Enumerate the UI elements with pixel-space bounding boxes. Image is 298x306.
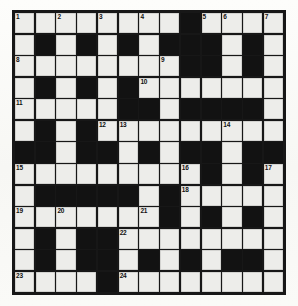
open-square-r3-c11[interactable] bbox=[222, 56, 241, 76]
open-square-r3-c2[interactable] bbox=[36, 56, 55, 76]
open-square-r13-c9[interactable] bbox=[181, 272, 200, 292]
open-square-r2-c7[interactable] bbox=[139, 35, 158, 55]
open-square-r11-c12[interactable] bbox=[243, 229, 262, 249]
open-square-r8-c13[interactable]: 17 bbox=[264, 164, 283, 184]
open-square-r3-c13[interactable] bbox=[264, 56, 283, 76]
open-square-r4-c7[interactable]: 10 bbox=[139, 78, 158, 98]
open-square-r13-c3[interactable] bbox=[56, 272, 75, 292]
open-square-r11-c13[interactable] bbox=[264, 229, 283, 249]
open-square-r10-c2[interactable] bbox=[36, 207, 55, 227]
open-square-r6-c9[interactable] bbox=[181, 121, 200, 141]
open-square-r8-c11[interactable] bbox=[222, 164, 241, 184]
open-square-r4-c13[interactable] bbox=[264, 78, 283, 98]
open-square-r2-c5[interactable] bbox=[98, 35, 117, 55]
open-square-r11-c3[interactable] bbox=[56, 229, 75, 249]
open-square-r12-c1[interactable] bbox=[15, 250, 34, 270]
open-square-r1-c7[interactable]: 4 bbox=[139, 13, 158, 33]
open-square-r8-c3[interactable] bbox=[56, 164, 75, 184]
open-square-r7-c8[interactable] bbox=[160, 142, 179, 162]
open-square-r8-c1[interactable]: 15 bbox=[15, 164, 34, 184]
open-square-r1-c10[interactable]: 5 bbox=[202, 13, 221, 33]
open-square-r10-c5[interactable] bbox=[98, 207, 117, 227]
open-square-r3-c7[interactable] bbox=[139, 56, 158, 76]
open-square-r9-c9[interactable]: 18 bbox=[181, 186, 200, 206]
open-square-r9-c7[interactable] bbox=[139, 186, 158, 206]
open-square-r11-c11[interactable] bbox=[222, 229, 241, 249]
open-square-r12-c13[interactable] bbox=[264, 250, 283, 270]
open-square-r8-c6[interactable] bbox=[119, 164, 138, 184]
open-square-r11-c10[interactable] bbox=[202, 229, 221, 249]
open-square-r10-c9[interactable] bbox=[181, 207, 200, 227]
open-square-r13-c6[interactable]: 24 bbox=[119, 272, 138, 292]
open-square-r7-c11[interactable] bbox=[222, 142, 241, 162]
open-square-r8-c4[interactable] bbox=[77, 164, 96, 184]
crossword-grid[interactable]: 123456789101112131415161718192021222324 bbox=[14, 12, 284, 293]
open-square-r6-c13[interactable] bbox=[264, 121, 283, 141]
open-square-r1-c1[interactable]: 1 bbox=[15, 13, 34, 33]
open-square-r3-c3[interactable] bbox=[56, 56, 75, 76]
open-square-r10-c6[interactable] bbox=[119, 207, 138, 227]
open-square-r9-c1[interactable] bbox=[15, 186, 34, 206]
open-square-r6-c7[interactable] bbox=[139, 121, 158, 141]
open-square-r7-c3[interactable] bbox=[56, 142, 75, 162]
open-square-r8-c7[interactable] bbox=[139, 164, 158, 184]
open-square-r4-c9[interactable] bbox=[181, 78, 200, 98]
open-square-r5-c4[interactable] bbox=[77, 99, 96, 119]
open-square-r12-c8[interactable] bbox=[160, 250, 179, 270]
open-square-r3-c4[interactable] bbox=[77, 56, 96, 76]
open-square-r4-c3[interactable] bbox=[56, 78, 75, 98]
open-square-r4-c12[interactable] bbox=[243, 78, 262, 98]
open-square-r2-c1[interactable] bbox=[15, 35, 34, 55]
open-square-r6-c8[interactable] bbox=[160, 121, 179, 141]
open-square-r1-c13[interactable]: 7 bbox=[264, 13, 283, 33]
open-square-r6-c3[interactable] bbox=[56, 121, 75, 141]
open-square-r5-c5[interactable] bbox=[98, 99, 117, 119]
open-square-r10-c13[interactable] bbox=[264, 207, 283, 227]
open-square-r5-c2[interactable] bbox=[36, 99, 55, 119]
open-square-r13-c2[interactable] bbox=[36, 272, 55, 292]
open-square-r6-c10[interactable] bbox=[202, 121, 221, 141]
open-square-r13-c7[interactable] bbox=[139, 272, 158, 292]
open-square-r5-c3[interactable] bbox=[56, 99, 75, 119]
open-square-r10-c7[interactable]: 21 bbox=[139, 207, 158, 227]
open-square-r3-c6[interactable] bbox=[119, 56, 138, 76]
open-square-r6-c11[interactable]: 14 bbox=[222, 121, 241, 141]
open-square-r3-c1[interactable]: 8 bbox=[15, 56, 34, 76]
open-square-r12-c6[interactable] bbox=[119, 250, 138, 270]
open-square-r9-c11[interactable] bbox=[222, 186, 241, 206]
open-square-r7-c6[interactable] bbox=[119, 142, 138, 162]
open-square-r8-c2[interactable] bbox=[36, 164, 55, 184]
open-square-r4-c10[interactable] bbox=[202, 78, 221, 98]
open-square-r13-c1[interactable]: 23 bbox=[15, 272, 34, 292]
open-square-r10-c3[interactable]: 20 bbox=[56, 207, 75, 227]
open-square-r11-c8[interactable] bbox=[160, 229, 179, 249]
open-square-r1-c4[interactable] bbox=[77, 13, 96, 33]
open-square-r10-c11[interactable] bbox=[222, 207, 241, 227]
open-square-r1-c12[interactable] bbox=[243, 13, 262, 33]
open-square-r4-c1[interactable] bbox=[15, 78, 34, 98]
open-square-r12-c10[interactable] bbox=[202, 250, 221, 270]
open-square-r12-c3[interactable] bbox=[56, 250, 75, 270]
open-square-r13-c13[interactable] bbox=[264, 272, 283, 292]
open-square-r1-c5[interactable]: 3 bbox=[98, 13, 117, 33]
open-square-r2-c13[interactable] bbox=[264, 35, 283, 55]
open-square-r6-c12[interactable] bbox=[243, 121, 262, 141]
open-square-r3-c8[interactable]: 9 bbox=[160, 56, 179, 76]
open-square-r9-c12[interactable] bbox=[243, 186, 262, 206]
open-square-r1-c3[interactable]: 2 bbox=[56, 13, 75, 33]
open-square-r5-c8[interactable] bbox=[160, 99, 179, 119]
open-square-r13-c8[interactable] bbox=[160, 272, 179, 292]
open-square-r6-c1[interactable] bbox=[15, 121, 34, 141]
open-square-r1-c8[interactable] bbox=[160, 13, 179, 33]
open-square-r11-c7[interactable] bbox=[139, 229, 158, 249]
open-square-r11-c1[interactable] bbox=[15, 229, 34, 249]
open-square-r2-c3[interactable] bbox=[56, 35, 75, 55]
open-square-r1-c2[interactable] bbox=[36, 13, 55, 33]
open-square-r5-c1[interactable]: 11 bbox=[15, 99, 34, 119]
open-square-r11-c6[interactable]: 22 bbox=[119, 229, 138, 249]
open-square-r3-c5[interactable] bbox=[98, 56, 117, 76]
open-square-r6-c6[interactable]: 13 bbox=[119, 121, 138, 141]
open-square-r11-c9[interactable] bbox=[181, 229, 200, 249]
open-square-r1-c6[interactable] bbox=[119, 13, 138, 33]
open-square-r8-c8[interactable] bbox=[160, 164, 179, 184]
